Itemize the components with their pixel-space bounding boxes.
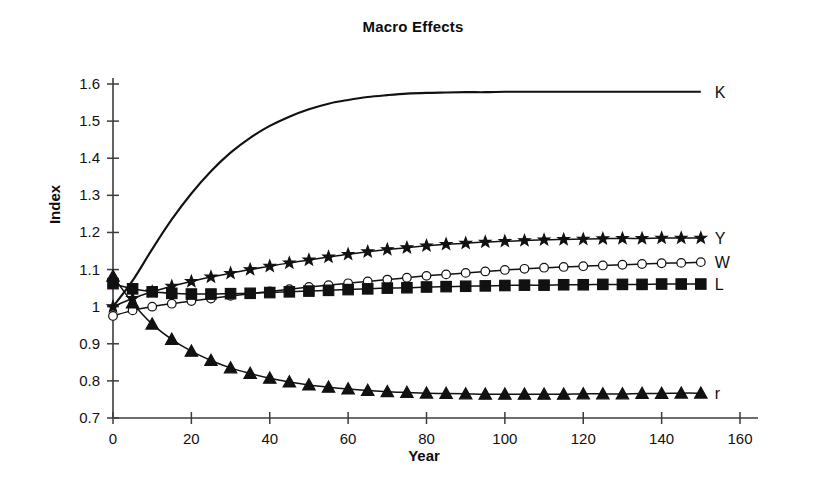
marker-star (617, 232, 628, 243)
marker-star (597, 233, 608, 244)
x-tick-label: 120 (571, 430, 596, 447)
marker-star (205, 271, 216, 282)
marker-square-filled (382, 283, 392, 293)
marker-star (225, 267, 236, 278)
marker-square-filled (421, 282, 431, 292)
marker-triangle-filled (224, 362, 236, 373)
marker-star (440, 238, 451, 249)
marker-square-filled (460, 281, 470, 291)
marker-circle-open (422, 272, 431, 281)
marker-square-filled (617, 279, 627, 289)
marker-circle-open (501, 266, 510, 275)
marker-square-filled (578, 280, 588, 290)
marker-circle-open (167, 299, 176, 308)
marker-triangle-filled (205, 354, 217, 365)
marker-square-filled (637, 279, 647, 289)
marker-square-filled (245, 288, 255, 298)
series-K: K (113, 84, 726, 307)
y-tick-label: 1.6 (79, 75, 100, 92)
y-tick-label: 1.2 (79, 223, 100, 240)
x-tick-label: 0 (109, 430, 117, 447)
x-tick-label: 100 (492, 430, 517, 447)
y-tick-label: 1 (92, 298, 100, 315)
marker-square-filled (343, 284, 353, 294)
marker-star (695, 232, 706, 243)
marker-circle-open (579, 262, 588, 271)
marker-circle-open (559, 263, 568, 272)
marker-square-filled (206, 289, 216, 299)
y-tick-label: 0.9 (79, 335, 100, 352)
marker-square-filled (656, 279, 666, 289)
marker-circle-open (520, 265, 529, 274)
marker-circle-open (540, 263, 549, 272)
marker-star (499, 235, 510, 246)
x-tick-label: 20 (183, 430, 200, 447)
x-tick-label: 60 (340, 430, 357, 447)
marker-square-filled (519, 280, 529, 290)
marker-star (480, 236, 491, 247)
y-tick-label: 1.3 (79, 186, 100, 203)
marker-circle-open (697, 258, 706, 267)
marker-square-filled (186, 289, 196, 299)
marker-star (538, 234, 549, 245)
marker-star (558, 234, 569, 245)
x-tick-label: 80 (418, 430, 435, 447)
marker-triangle-filled (107, 270, 119, 281)
marker-star (676, 232, 687, 243)
plot-area: 0.70.80.911.11.21.31.41.51.6020406080100… (0, 0, 826, 491)
y-tick-label: 0.8 (79, 372, 100, 389)
marker-circle-open (677, 259, 686, 268)
marker-square-filled (500, 280, 510, 290)
marker-star (578, 233, 589, 244)
marker-star (362, 246, 373, 257)
series-label-W: W (715, 254, 731, 271)
marker-star (323, 251, 334, 262)
marker-square-filled (441, 281, 451, 291)
marker-square-filled (539, 280, 549, 290)
marker-star (460, 237, 471, 248)
x-tick-label: 160 (727, 430, 752, 447)
marker-square-filled (363, 284, 373, 294)
marker-star (382, 244, 393, 255)
marker-circle-open (109, 312, 118, 321)
marker-circle-open (618, 260, 627, 269)
marker-circle-open (638, 260, 647, 269)
marker-circle-open (599, 261, 608, 270)
marker-square-filled (676, 279, 686, 289)
marker-square-filled (284, 287, 294, 297)
series-label-r: r (715, 385, 721, 402)
y-tick-label: 1.4 (79, 149, 100, 166)
marker-circle-open (657, 259, 666, 268)
y-tick-label: 0.7 (79, 409, 100, 426)
marker-star (519, 235, 530, 246)
series-r: r (107, 270, 721, 402)
marker-star (342, 248, 353, 259)
marker-star (186, 275, 197, 286)
marker-square-filled (265, 287, 275, 297)
chart-figure: Macro Effects Index Year 0.70.80.911.11.… (0, 0, 826, 491)
marker-star (284, 257, 295, 268)
marker-star (303, 254, 314, 265)
marker-circle-open (461, 269, 470, 278)
marker-square-filled (323, 285, 333, 295)
marker-triangle-filled (166, 333, 178, 344)
marker-square-filled (304, 286, 314, 296)
marker-square-filled (147, 287, 157, 297)
marker-circle-open (403, 273, 412, 282)
marker-circle-open (442, 270, 451, 279)
marker-star (264, 260, 275, 271)
marker-triangle-filled (185, 345, 197, 356)
marker-square-filled (167, 288, 177, 298)
marker-star (421, 240, 432, 251)
x-tick-label: 40 (261, 430, 278, 447)
marker-square-filled (558, 280, 568, 290)
marker-square-filled (225, 288, 235, 298)
marker-square-filled (598, 279, 608, 289)
x-tick-label: 140 (649, 430, 674, 447)
y-tick-label: 1.1 (79, 261, 100, 278)
series-label-L: L (715, 276, 724, 293)
marker-star (636, 232, 647, 243)
series-label-Y: Y (715, 230, 726, 247)
marker-square-filled (480, 281, 490, 291)
marker-star (656, 232, 667, 243)
